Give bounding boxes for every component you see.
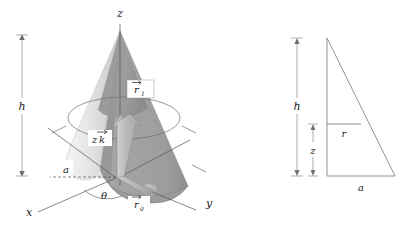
triangle-outline xyxy=(327,38,395,176)
z-k-vector-label-k: k xyxy=(99,134,105,145)
triangle-a-label: a xyxy=(358,182,364,193)
triangle-r-label: r xyxy=(342,128,348,139)
r0-vector-label-sub: 0 xyxy=(140,205,144,212)
rim-tick-left xyxy=(52,126,66,133)
figure-root: h z xyxy=(0,0,407,237)
triangle-h-label: h xyxy=(293,100,300,113)
triangle-h-arrow-bottom-icon xyxy=(294,170,299,176)
triangle-h-arrow-top-icon xyxy=(294,38,299,44)
triangle-z-arrow-bottom-icon xyxy=(311,170,316,176)
axis-x-label: x xyxy=(26,206,33,219)
triangle-height-dimension-h: h xyxy=(290,38,304,176)
radius-a-label: a xyxy=(63,164,69,175)
rim-tick-lower-right xyxy=(192,165,206,172)
height-dimension-h: h xyxy=(15,34,29,177)
height-label-h: h xyxy=(18,100,25,113)
cone-3d-diagram: h z xyxy=(15,7,213,219)
theta-angle-label: θ xyxy=(101,190,107,201)
z-k-vector-label-z: z xyxy=(91,134,98,145)
triangle-z-arrow-top-icon xyxy=(311,124,316,130)
cross-section-triangle: h z r a xyxy=(290,38,395,193)
rim-tick-right xyxy=(182,126,196,133)
axis-y-label: y xyxy=(205,197,213,210)
r1-vector-label-sub: 1 xyxy=(141,90,145,97)
figure-svg: h z xyxy=(0,0,407,237)
triangle-z-label: z xyxy=(309,145,316,156)
triangle-sub-height-dimension-z: z xyxy=(307,124,319,176)
axis-z-label: z xyxy=(116,7,123,20)
